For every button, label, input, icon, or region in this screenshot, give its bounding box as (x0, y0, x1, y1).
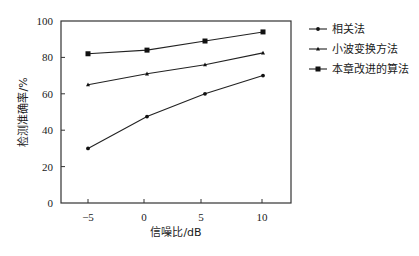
y-tick-label: 100 (37, 15, 54, 27)
series-square (86, 29, 266, 56)
line-chart: 020406080100 −50510 信噪比/dB 检测准确率/% 相关法小波… (0, 0, 419, 256)
y-tick-label: 0 (48, 197, 54, 209)
dot-marker (203, 92, 207, 96)
square-marker (145, 48, 150, 53)
y-tick-label: 20 (42, 161, 54, 173)
y-axis-title: 检测准确率/% (16, 77, 30, 146)
legend: 相关法小波变换方法本章改进的算法 (309, 22, 409, 76)
series-line (88, 32, 263, 54)
legend-label: 相关法 (332, 22, 365, 36)
series-group (86, 29, 266, 150)
y-tick-label: 60 (42, 88, 54, 100)
square-marker (86, 51, 91, 56)
square-marker (261, 29, 266, 34)
legend-label: 小波变换方法 (332, 42, 398, 56)
dot-marker (316, 27, 320, 31)
square-marker (203, 39, 208, 44)
x-tick-label: 5 (198, 211, 204, 223)
square-marker (316, 67, 321, 72)
series-dot (86, 74, 265, 151)
plot-frame (61, 21, 291, 203)
triangle-marker (261, 51, 265, 55)
x-axis-title: 信噪比/dB (150, 226, 201, 239)
dot-marker (145, 115, 149, 119)
legend-label: 本章改进的算法 (332, 62, 409, 76)
series-line (88, 76, 263, 149)
legend-item: 相关法 (309, 22, 365, 36)
y-tick-label: 80 (42, 51, 54, 63)
x-tick-label: 10 (257, 211, 269, 223)
y-tick-label: 40 (42, 124, 54, 136)
series-triangle (86, 51, 265, 87)
dot-marker (86, 147, 90, 151)
x-tick-label: 0 (141, 211, 147, 223)
series-line (88, 53, 263, 85)
x-tick-label: −5 (82, 211, 94, 223)
legend-item: 本章改进的算法 (309, 62, 409, 76)
dot-marker (261, 74, 265, 78)
legend-item: 小波变换方法 (309, 42, 398, 56)
